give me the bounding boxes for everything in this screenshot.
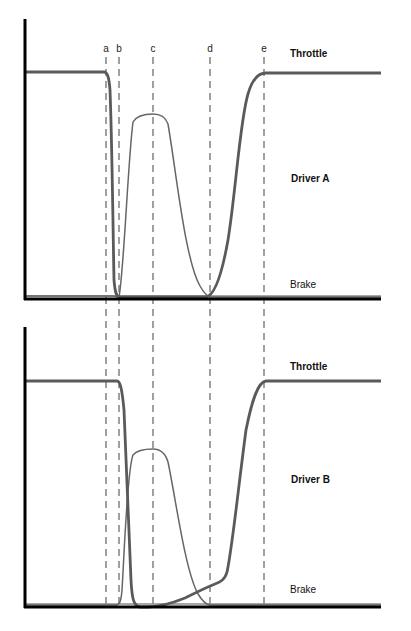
driver-a-chart	[24, 19, 381, 300]
driver-a-brake-line	[26, 114, 381, 297]
driver-b-brake-line	[26, 449, 381, 605]
driver-b-title: Driver B	[291, 475, 330, 485]
driver-a-title: Driver A	[291, 174, 330, 184]
marker-label-c: c	[151, 44, 156, 54]
driver-a-throttle-line	[26, 72, 381, 297]
driver-b-chart	[24, 327, 381, 608]
throttle-brake-chart	[0, 0, 411, 631]
driver-b-throttle-label: Throttle	[290, 362, 327, 372]
driver-a-throttle-label: Throttle	[290, 49, 327, 59]
marker-label-d: d	[207, 44, 213, 54]
marker-label-a: a	[103, 44, 109, 54]
marker-label-e: e	[261, 44, 267, 54]
marker-label-b: b	[116, 44, 122, 54]
driver-a-brake-label: Brake	[290, 280, 316, 290]
driver-b-throttle-line	[26, 381, 381, 607]
driver-b-brake-label: Brake	[290, 585, 316, 595]
